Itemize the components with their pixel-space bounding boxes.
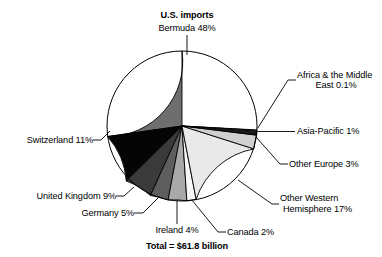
label-africa-middle-east-line2: East 0.1%	[297, 80, 375, 91]
chart-title: U.S. imports	[131, 10, 243, 21]
label-asia-pacific: Asia-Pacific 1%	[297, 126, 382, 137]
label-united-kingdom: United Kingdom 9%	[16, 191, 116, 202]
label-ireland: Ireland 4%	[145, 225, 209, 236]
leader-africa	[258, 80, 297, 129]
leader-other-western	[238, 180, 279, 204]
slice-bermuda	[108, 51, 183, 137]
label-germany: Germany 5%	[54, 208, 134, 219]
label-africa-middle-east-line1: Africa & the Middle	[297, 70, 382, 81]
label-other-western-hemisphere-line1: Other Western	[280, 193, 380, 204]
leader-germany	[134, 198, 159, 214]
label-bermuda: Bermuda 48%	[131, 23, 243, 34]
leader-united-kingdom	[116, 187, 134, 196]
leader-other-europe	[256, 137, 288, 164]
pie-slices	[107, 51, 257, 201]
label-other-europe: Other Europe 3%	[289, 159, 381, 170]
chart-footer-total: Total = $61.8 billion	[122, 241, 252, 252]
label-switzerland: Switzerland 11%	[9, 135, 93, 146]
label-other-western-hemisphere-line2: Hemisphere 17%	[283, 204, 382, 215]
pie-chart-figure: U.S. imports Bermuda 48% Africa & the Mi…	[0, 0, 382, 257]
label-canada: Canada 2%	[227, 227, 297, 238]
